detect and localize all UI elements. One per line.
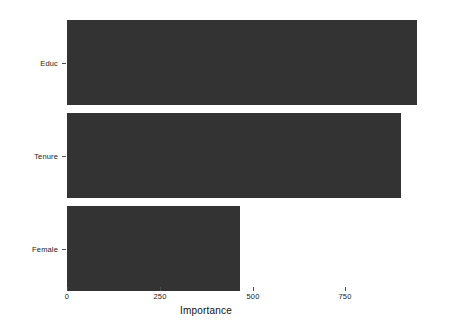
x-axis-title-text: Importance xyxy=(180,305,232,316)
y-tick-mark-female xyxy=(62,249,66,250)
table-row xyxy=(67,113,436,198)
bar-educ[interactable] xyxy=(67,20,417,105)
bar-chart: Educ Tenure Female 0 250 500 750 Importa… xyxy=(0,0,450,328)
y-tick-label-female: Female xyxy=(32,245,58,254)
y-tick-mark-educ xyxy=(62,63,66,64)
x-tick-label-750: 750 xyxy=(339,292,352,301)
x-tick-mark-750 xyxy=(345,287,346,291)
y-tick-label-educ: Educ xyxy=(40,59,58,68)
table-row xyxy=(67,20,436,105)
x-axis-title: Importance xyxy=(0,305,450,316)
x-tick-label-0: 0 xyxy=(65,292,69,301)
x-tick-label-500: 500 xyxy=(247,292,260,301)
table-row xyxy=(67,206,436,291)
x-tick-mark-500 xyxy=(253,287,254,291)
x-tick-label-250: 250 xyxy=(154,292,167,301)
bar-female[interactable] xyxy=(67,206,240,291)
x-tick-mark-250 xyxy=(160,287,161,291)
y-tick-label-tenure: Tenure xyxy=(34,152,58,161)
x-tick-mark-0 xyxy=(67,287,68,291)
bar-tenure[interactable] xyxy=(67,113,401,198)
y-tick-mark-tenure xyxy=(62,156,66,157)
plot-area xyxy=(67,14,436,277)
